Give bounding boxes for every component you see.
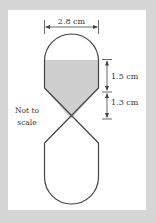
upper-height-label: 1.5 cm [111, 72, 139, 81]
height-dimension [102, 60, 112, 120]
lower-height-label: 1.3 cm [111, 98, 139, 107]
not-to-scale-line2: scale [17, 118, 37, 127]
width-label: 2.8 cm [58, 17, 86, 26]
hourglass-diagram: 2.8 cm 1.5 cm 1.3 cm Not to scale [0, 0, 156, 223]
not-to-scale-line1: Not to [15, 106, 39, 115]
liquid-fill [45, 60, 99, 119]
hourglass-outline [45, 34, 99, 204]
